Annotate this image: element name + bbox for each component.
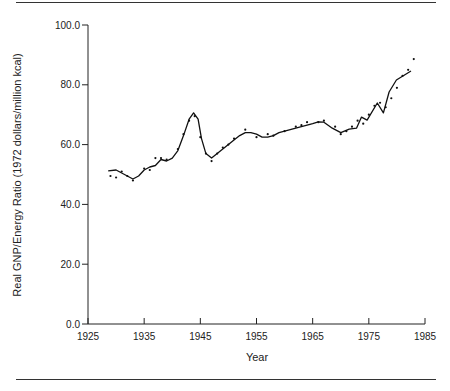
data-point — [373, 105, 375, 107]
data-point — [362, 123, 364, 125]
y-tick-label: 60.0 — [61, 139, 81, 150]
data-point — [188, 120, 190, 122]
data-point — [334, 126, 336, 128]
data-point — [194, 115, 196, 117]
data-point — [227, 144, 229, 146]
data-point — [300, 124, 302, 126]
data-point — [345, 130, 347, 132]
data-point — [115, 176, 117, 178]
data-point — [216, 152, 218, 154]
data-point — [166, 158, 168, 160]
y-axis-title: Real GNP/Energy Ratio (1972 dollars/mill… — [11, 53, 23, 296]
x-tick-label: 1955 — [245, 331, 268, 342]
x-tick-label: 1945 — [189, 331, 212, 342]
data-point — [205, 152, 207, 154]
data-point — [126, 175, 128, 177]
data-point — [222, 146, 224, 148]
data-point — [109, 175, 111, 177]
y-tick-label: 40.0 — [61, 199, 81, 210]
data-point — [272, 135, 274, 137]
data-point — [340, 133, 342, 135]
data-point — [390, 97, 392, 99]
data-point — [255, 136, 257, 138]
data-point — [177, 148, 179, 150]
data-point — [323, 120, 325, 122]
data-point — [401, 75, 403, 77]
data-point — [283, 130, 285, 132]
x-tick-label: 1965 — [302, 331, 325, 342]
data-point — [317, 121, 319, 123]
x-tick-label: 1925 — [77, 331, 100, 342]
data-point — [121, 170, 123, 172]
data-point — [199, 136, 201, 138]
data-point — [149, 169, 151, 171]
data-point — [160, 157, 162, 159]
y-tick-label: 100.0 — [55, 20, 80, 31]
data-point — [233, 138, 235, 140]
x-tick-label: 1985 — [414, 331, 437, 342]
data-point — [379, 102, 381, 104]
x-tick-label: 1935 — [133, 331, 156, 342]
data-point — [295, 126, 297, 128]
chart: 0.020.040.060.080.0100.01925193519451955… — [0, 0, 450, 391]
y-tick-label: 0.0 — [66, 319, 80, 330]
data-point — [368, 114, 370, 116]
data-point — [267, 133, 269, 135]
trend-line — [108, 71, 411, 179]
data-point — [132, 179, 134, 181]
y-tick-label: 80.0 — [61, 79, 81, 90]
data-point — [413, 58, 415, 60]
data-point — [210, 160, 212, 162]
data-point — [407, 69, 409, 71]
data-point — [385, 106, 387, 108]
data-point — [306, 121, 308, 123]
data-point — [357, 120, 359, 122]
data-point — [396, 87, 398, 89]
plot-area: 0.020.040.060.080.0100.01925193519451955… — [55, 20, 437, 343]
y-tick-label: 20.0 — [61, 259, 81, 270]
data-point — [351, 126, 353, 128]
x-axis-title: Year — [246, 351, 269, 363]
data-point — [154, 157, 156, 159]
data-point — [244, 129, 246, 131]
data-point — [143, 167, 145, 169]
x-tick-label: 1975 — [358, 331, 381, 342]
data-point — [182, 133, 184, 135]
